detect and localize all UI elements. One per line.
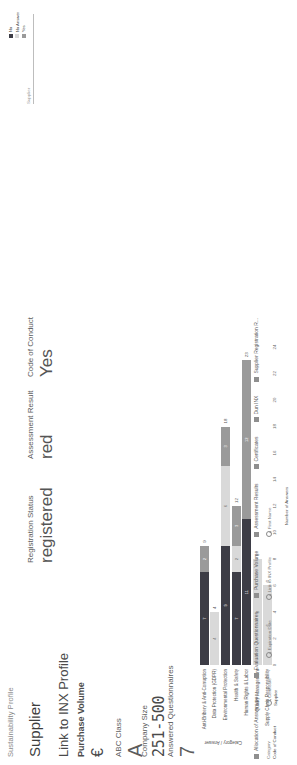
- chart-legend: NoNo AnswerYes: [8, 12, 26, 38]
- grid-icon: [254, 417, 259, 422]
- tab-label: Assessment Results: [253, 483, 259, 528]
- legend-swatch-icon: [9, 34, 13, 38]
- bar-segment-no-answer[interactable]: 2: [232, 546, 241, 573]
- bar-segment-no[interactable]: 11: [242, 519, 251, 665]
- filter-link-to-inx-profile[interactable]: Link to INX Profile: [266, 557, 272, 600]
- search-icon[interactable]: [266, 700, 272, 706]
- grid-icon: [254, 532, 259, 537]
- search-icon[interactable]: [266, 531, 272, 537]
- tab-label: Purchase Volume: [253, 551, 259, 590]
- bar-total-label: 23: [242, 352, 251, 357]
- bar-row[interactable]: Anti-Bribery & Anti-Corruption729: [200, 347, 209, 665]
- kpi-company-size: Company Size 251-500: [140, 696, 168, 757]
- bar-segment-no-answer[interactable]: 6: [221, 466, 230, 545]
- bar-segment-yes[interactable]: 3: [221, 427, 230, 467]
- filter-expiration-date[interactable]: Expiration Date: [266, 620, 272, 658]
- bar-total-label: 4: [210, 607, 219, 609]
- bar-row[interactable]: Environmental Protection96318: [221, 347, 230, 665]
- tab-supplier-registration-r[interactable]: Supplier Registration R...: [253, 318, 259, 382]
- chart-y-axis-title: Category / Answer: [204, 740, 242, 745]
- grid-icon: [254, 464, 259, 469]
- filter-header[interactable]: Category: [266, 726, 271, 759]
- grid-icon: [254, 377, 259, 382]
- bar-row[interactable]: Health & Safety72312: [232, 347, 241, 665]
- legend-label: No Answer: [15, 12, 20, 32]
- bar-category-label: Human Rights & Labor: [242, 669, 251, 715]
- search-icon[interactable]: [266, 652, 272, 658]
- filter-certificate[interactable]: CertificateSupplier: [266, 678, 278, 706]
- bar-segment-yes[interactable]: 3: [232, 506, 241, 546]
- bar-category-label: Anti-Bribery & Anti-Corruption: [200, 669, 209, 729]
- filter-first-name[interactable]: First Name: [266, 508, 272, 537]
- tab-purchase-volume[interactable]: Purchase Volume: [253, 551, 259, 598]
- kpi-supplier-label: Supplier: [26, 702, 43, 757]
- tab-label: Certificates: [253, 436, 259, 461]
- tab-certificates[interactable]: Certificates: [253, 436, 259, 469]
- tab-dun-inx[interactable]: Dun INX: [253, 396, 259, 423]
- bar-category-label: Environmental Protection: [221, 669, 230, 720]
- kpi-code-of-conduct: Code of Conduct Yes: [26, 317, 57, 377]
- tab-evaluation-questionnaires[interactable]: Evaluation Questionnaires: [253, 612, 259, 678]
- kpi-company-size-label: Company Size: [140, 696, 149, 757]
- stacked-bar[interactable]: 72: [200, 546, 209, 665]
- stacked-bar[interactable]: 963: [221, 427, 230, 666]
- filter-category[interactable]: CategoryCode of Conduct: [266, 726, 277, 759]
- kpi-purchase-volume-label: Purchase Volume: [76, 682, 86, 757]
- filter-value: Supplier: [273, 678, 278, 706]
- sustainability-profile-dashboard: Sustainability Profile Supplier Supplier…: [0, 0, 297, 765]
- tab-list: Allocation of Answers pe...Evaluation Qu…: [253, 318, 259, 759]
- supplier-header-label: Supplier: [26, 14, 31, 104]
- tab-assessment-results[interactable]: Assessment Results: [253, 483, 259, 536]
- filter-header[interactable]: Certificate: [266, 678, 272, 706]
- kpi-purchase-volume-value: €: [89, 682, 107, 757]
- bar-category-label: Data Protection (GDPR): [210, 669, 219, 718]
- bar-total-label: 12: [232, 498, 241, 503]
- kpi-supplier: Supplier: [26, 702, 43, 757]
- kpi-registration-status: Registration Status registered: [26, 487, 57, 563]
- kpi-assessment-result: Assessment Result red: [26, 391, 57, 459]
- kpi-answered-questionnaires-label: Answered Questionnaires: [166, 665, 175, 757]
- bar-category-label: Health & Safety: [232, 669, 241, 701]
- bar-row[interactable]: Data Protection (GDPR)44: [210, 347, 219, 665]
- legend-item-no[interactable]: No: [8, 12, 13, 38]
- grid-icon: [254, 673, 259, 678]
- kpi-link-to-inx-profile-label[interactable]: Link to INX Profile: [56, 653, 71, 757]
- stacked-bar[interactable]: 1112: [242, 360, 251, 665]
- bottom-tabstrip: Allocation of Answers pe...Evaluation Qu…: [253, 19, 293, 759]
- kpi-code-of-conduct-label: Code of Conduct: [26, 317, 35, 377]
- kpi-registration-status-value: registered: [37, 487, 57, 563]
- filter-value: Code of Conduct: [272, 726, 277, 759]
- screenshot-stage: Sustainability Profile Supplier Supplier…: [0, 0, 297, 765]
- filter-name: Certificate: [267, 678, 272, 698]
- bar-segment-no[interactable]: 9: [221, 546, 230, 665]
- kpi-link-to-inx-profile[interactable]: Link to INX Profile: [56, 653, 71, 757]
- legend-label: No: [8, 27, 13, 32]
- legend-item-yes[interactable]: Yes: [21, 12, 26, 38]
- stacked-bar[interactable]: 4: [210, 612, 219, 665]
- bar-total-label: 9: [200, 540, 209, 542]
- tab-allocation-of-answers-pe[interactable]: Allocation of Answers pe...: [253, 692, 259, 759]
- bar-segment-no[interactable]: 7: [232, 572, 241, 665]
- search-icon[interactable]: [266, 594, 272, 600]
- kpi-assessment-result-label: Assessment Result: [26, 391, 35, 459]
- tab-label: Dun INX: [253, 396, 259, 415]
- bar-segment-no[interactable]: 7: [200, 572, 209, 665]
- filter-header[interactable]: First Name: [266, 508, 272, 537]
- kpi-abc-class-label: ABC Class: [114, 718, 123, 757]
- bar-segment-no-answer[interactable]: 4: [210, 612, 219, 665]
- bar-row[interactable]: Human Rights & Labor111223: [242, 347, 251, 665]
- legend-item-no-answer[interactable]: No Answer: [15, 12, 20, 38]
- bar-total-label: 18: [221, 419, 230, 424]
- bar-segment-yes[interactable]: 2: [200, 546, 209, 573]
- kpi-code-of-conduct-value: Yes: [37, 317, 57, 377]
- bar-segment-yes[interactable]: 12: [242, 360, 251, 519]
- kpi-strip: Supplier Link to INX Profile Purchase Vo…: [10, 307, 190, 759]
- filter-header[interactable]: Expiration Date: [266, 620, 272, 658]
- tab-label: Evaluation Questionnaires: [253, 612, 259, 670]
- filter-name: Link to INX Profile: [267, 557, 272, 592]
- filter-name: Category: [266, 741, 271, 759]
- filter-header[interactable]: Link to INX Profile: [266, 557, 272, 600]
- stacked-bar[interactable]: 723: [232, 506, 241, 665]
- kpi-registration-status-label: Registration Status: [26, 487, 35, 563]
- bar-chart-icon: [254, 754, 259, 759]
